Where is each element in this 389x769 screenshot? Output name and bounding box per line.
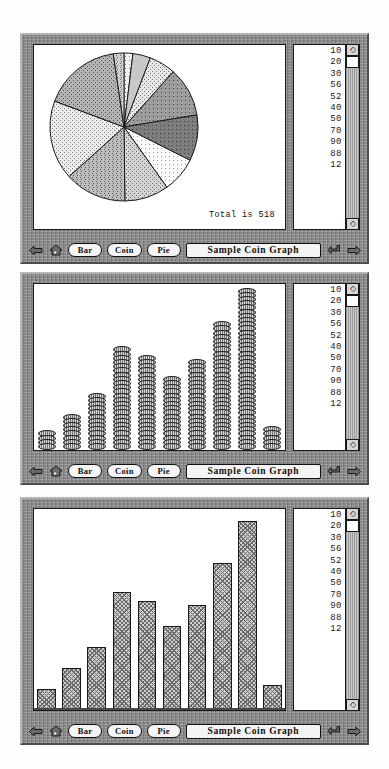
scrollbar-pie[interactable]: ◇ ◇ (345, 45, 359, 229)
return-icon[interactable] (326, 243, 341, 258)
home-icon[interactable] (48, 464, 63, 479)
value-list-item[interactable]: 90 (294, 376, 342, 387)
scroll-down-icon[interactable]: ◇ (346, 218, 359, 230)
bar (263, 685, 282, 710)
value-list-item[interactable]: 50 (294, 114, 342, 125)
coin (188, 443, 206, 450)
value-list-item[interactable]: 30 (294, 533, 342, 544)
value-list-item[interactable]: 52 (294, 556, 342, 567)
coin-button[interactable]: Coin (107, 724, 142, 738)
scroll-up-icon[interactable]: ◇ (346, 44, 359, 56)
bar-group (34, 509, 285, 710)
coin-button[interactable]: Coin (107, 243, 142, 257)
coin-stack (63, 414, 81, 450)
value-list-item[interactable]: 70 (294, 126, 342, 137)
value-list-item[interactable]: 88 (294, 613, 342, 624)
left-arrow-icon[interactable] (28, 724, 43, 739)
home-icon[interactable] (48, 724, 63, 739)
bar-baseline (34, 708, 285, 710)
graph-title-field[interactable]: Sample Coin Graph (186, 464, 321, 479)
right-arrow-icon[interactable] (346, 464, 361, 479)
coin (138, 443, 156, 450)
coin (63, 443, 81, 450)
value-list-panel-coin[interactable]: 1020305652405070908812 ◇ ◇ (293, 283, 360, 451)
scroll-up-icon[interactable]: ◇ (346, 283, 359, 295)
value-list-item[interactable]: 56 (294, 319, 342, 330)
coin (113, 443, 131, 450)
bar (138, 601, 157, 710)
scrollbar-thumb[interactable] (346, 295, 359, 307)
value-list-item[interactable]: 90 (294, 601, 342, 612)
value-list-item[interactable]: 56 (294, 544, 342, 555)
value-list-item[interactable]: 40 (294, 567, 342, 578)
value-list-item[interactable]: 88 (294, 388, 342, 399)
value-list-item[interactable]: 12 (294, 160, 342, 171)
scroll-down-icon[interactable]: ◇ (346, 699, 359, 711)
home-icon[interactable] (48, 243, 63, 258)
value-list-panel-pie[interactable]: 1020305652405070908812 ◇ ◇ (293, 44, 360, 230)
pie-button[interactable]: Pie (147, 464, 181, 478)
value-list-item[interactable]: 30 (294, 308, 342, 319)
value-list-item[interactable]: 10 (294, 285, 342, 296)
value-list-item[interactable]: 88 (294, 149, 342, 160)
toolbar-coin: Bar Coin Pie Sample Coin Graph (22, 459, 367, 483)
pie-button[interactable]: Pie (147, 724, 181, 738)
scrollbar-thumb[interactable] (346, 56, 359, 68)
value-list-item[interactable]: 30 (294, 69, 342, 80)
graph-title-field[interactable]: Sample Coin Graph (186, 724, 321, 739)
value-list-item[interactable]: 20 (294, 57, 342, 68)
left-arrow-icon[interactable] (28, 464, 43, 479)
value-list-item[interactable]: 10 (294, 510, 342, 521)
bar-button[interactable]: Bar (68, 243, 102, 257)
value-list-item[interactable]: 50 (294, 578, 342, 589)
value-list-panel-bar[interactable]: 1020305652405070908812 ◇ ◇ (293, 508, 360, 711)
pie-button[interactable]: Pie (147, 243, 181, 257)
value-list-item[interactable]: 40 (294, 103, 342, 114)
bar (87, 647, 106, 710)
return-icon[interactable] (326, 724, 341, 739)
coin (38, 443, 56, 450)
bar-button[interactable]: Bar (68, 464, 102, 478)
value-list-item[interactable]: 52 (294, 92, 342, 103)
coin-stack (113, 350, 131, 450)
value-list-pie: 1020305652405070908812 (294, 45, 345, 229)
pie-total-label: Total is 518 (209, 210, 275, 220)
value-list-item[interactable]: 20 (294, 296, 342, 307)
graph-title-field[interactable]: Sample Coin Graph (186, 243, 321, 258)
value-list-item[interactable]: 52 (294, 331, 342, 342)
value-list-item[interactable]: 40 (294, 342, 342, 353)
bar (213, 563, 232, 710)
coin-stack (263, 429, 281, 450)
value-list-item[interactable]: 56 (294, 80, 342, 91)
value-list-item[interactable]: 20 (294, 521, 342, 532)
value-list-item[interactable]: 70 (294, 365, 342, 376)
left-arrow-icon[interactable] (28, 243, 43, 258)
scrollbar-thumb[interactable] (346, 520, 359, 532)
value-list-item[interactable]: 10 (294, 46, 342, 57)
coin-stack (38, 432, 56, 450)
coin-stack (163, 379, 181, 450)
value-list-item[interactable]: 50 (294, 353, 342, 364)
bar (62, 668, 81, 710)
bar-button[interactable]: Bar (68, 724, 102, 738)
scroll-up-icon[interactable]: ◇ (346, 508, 359, 520)
coin (263, 443, 281, 450)
coin (163, 443, 181, 450)
scroll-down-icon[interactable]: ◇ (346, 439, 359, 451)
value-list-item[interactable]: 12 (294, 624, 342, 635)
value-list-item[interactable]: 70 (294, 590, 342, 601)
value-list-item[interactable]: 90 (294, 137, 342, 148)
bar (37, 689, 56, 710)
scrollbar-bar[interactable]: ◇ ◇ (345, 509, 359, 710)
right-arrow-icon[interactable] (346, 243, 361, 258)
value-list-coin: 1020305652405070908812 (294, 284, 345, 450)
coin (238, 443, 256, 450)
coin-button[interactable]: Coin (107, 464, 142, 478)
coin-stack (88, 397, 106, 450)
coin-window: 1020305652405070908812 ◇ ◇ Bar Coin Pie … (20, 272, 369, 485)
scrollbar-coin[interactable]: ◇ ◇ (345, 284, 359, 450)
return-icon[interactable] (326, 464, 341, 479)
coin-stack (238, 290, 256, 450)
value-list-item[interactable]: 12 (294, 399, 342, 410)
right-arrow-icon[interactable] (346, 724, 361, 739)
